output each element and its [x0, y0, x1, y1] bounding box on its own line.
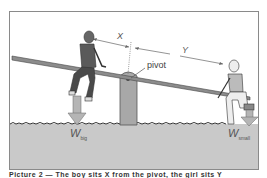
weight-big-arrow-icon	[68, 96, 86, 125]
w-big-subscript: big	[80, 135, 87, 141]
w-big-main: W	[70, 127, 80, 139]
x-distance-arrow	[93, 39, 129, 47]
pivot-label: pivot	[147, 60, 166, 70]
seesaw-scene	[10, 12, 258, 169]
figure-caption: Picture 2 — The boy sits X from the pivo…	[9, 171, 222, 178]
y-label: Y	[182, 45, 188, 55]
seesaw-diagram: X Y pivot Wbig Wsmall	[9, 11, 259, 170]
weight-small-arrow-icon	[241, 110, 258, 126]
w-small-label: Wsmall	[228, 127, 250, 141]
w-small-subscript: small	[238, 135, 250, 141]
boy-figure-icon	[69, 31, 106, 101]
y-distance-arrow	[135, 48, 170, 54]
w-big-label: Wbig	[70, 127, 87, 141]
w-small-main: W	[228, 127, 238, 139]
x-label: X	[117, 31, 123, 41]
grass-line	[10, 123, 226, 125]
